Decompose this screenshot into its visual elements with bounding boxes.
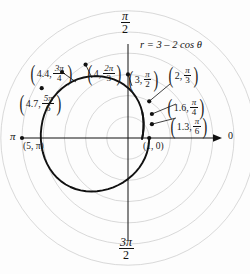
axis-bottom-denominator: 2 <box>119 249 134 261</box>
left-paren: ( <box>87 67 92 81</box>
r-value: 4.7 <box>26 98 39 109</box>
left-paren: ( <box>128 73 133 87</box>
point-label-4.4-3pi-over-4: ( 4.4, 3π 4 ) <box>29 64 73 83</box>
r-value: 1.3 <box>177 121 190 132</box>
left-paren: ( <box>30 67 35 81</box>
polar-graph-figure: r = 3 – 2 cos θ π 2 3π 2 π 0 ( 4.4, 3π 4… <box>0 0 250 274</box>
point-label-1-0: (1, 0) <box>143 141 164 151</box>
axis-top-denominator: 2 <box>121 23 130 35</box>
axis-label-zero: 0 <box>228 131 233 141</box>
axis-top-numerator: π <box>121 10 130 23</box>
point-label-2-pi-over-3: ( 2, π 3 ) <box>167 66 199 85</box>
axis-label-3pi-over-2: 3π 2 <box>118 236 134 261</box>
point-label-4-2pi-over-3: ( 4, 2π 3 ) <box>86 64 123 83</box>
point-theta-5pi-6 <box>40 86 44 90</box>
r-value: 1.6 <box>174 102 187 113</box>
angle-denominator: 3 <box>184 76 192 85</box>
point-label-4.7-5pi-over-6: ( 4.7, 5π 6 ) <box>18 94 62 113</box>
angle-denominator: 6 <box>193 127 201 136</box>
right-paren: ) <box>117 67 122 81</box>
equation-text: r = 3 – 2 cos θ <box>140 39 202 50</box>
axis-bottom-numerator: 3π <box>119 236 134 249</box>
angle-denominator: 2 <box>144 80 152 89</box>
point-label-3-pi-over-2: ( 3, π 2 ) <box>127 70 159 89</box>
axis-label-pi-over-2: π 2 <box>120 10 130 35</box>
point-label-1.3-pi-over-6: ( 1.3, π 6 ) <box>169 117 209 136</box>
horizontal-axis-arrowhead <box>213 134 222 142</box>
point-theta-pi <box>20 136 24 140</box>
polar-plot-canvas <box>0 0 250 274</box>
axis-label-pi: π <box>10 131 16 142</box>
point-label-5-pi: (5, π) <box>23 141 44 151</box>
right-paren: ) <box>153 73 158 87</box>
right-paren: ) <box>193 69 198 83</box>
left-paren: ( <box>168 69 173 83</box>
angle-denominator: 4 <box>53 74 65 83</box>
point-theta-0 <box>147 136 151 140</box>
r-value: 4.4 <box>37 68 50 79</box>
limacon-curve-inner-return <box>142 112 144 139</box>
angle-denominator: 6 <box>42 104 54 113</box>
left-paren: ( <box>170 120 175 134</box>
right-paren: ) <box>203 120 208 134</box>
angle-denominator: 3 <box>103 74 115 83</box>
equation-label: r = 3 – 2 cos θ <box>140 40 202 51</box>
right-paren: ) <box>67 67 72 81</box>
left-paren: ( <box>19 97 24 111</box>
right-paren: ) <box>56 97 61 111</box>
